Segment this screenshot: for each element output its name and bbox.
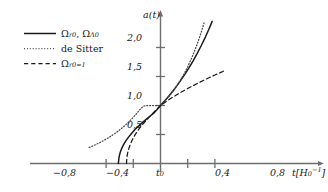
y-tick-label-1: 1,0 xyxy=(127,91,142,101)
y-tick-label-1_5: 1,5 xyxy=(127,62,142,72)
curve-omega-r0-eq-1 xyxy=(127,71,226,164)
y-axis-title: a(t) xyxy=(143,10,160,20)
x-tick-label-0_4: 0,4 xyxy=(215,168,230,178)
axis-layer xyxy=(30,16,318,172)
x-tick-label-t0: t0 xyxy=(156,168,164,178)
x-axis-title: t[H0−1] xyxy=(292,167,325,178)
legend-layer xyxy=(24,34,56,64)
y-tick-label-2: 2,0 xyxy=(127,33,142,43)
figure-scale-factor-plot xyxy=(0,0,328,192)
legend-label-de-sitter: de Sitter xyxy=(61,44,103,54)
x-tick-label-neg0_4: −0,4 xyxy=(106,168,129,178)
x-tick-label-0_8: 0,8 xyxy=(270,168,285,178)
legend-label-omega-r0-lambda0: Ωr0, ΩΛ0 xyxy=(61,29,99,39)
x-tick-label-neg0_8: −0,8 xyxy=(53,168,76,178)
curve-layer xyxy=(0,0,328,164)
y-tick-label-0_5: 0,5 xyxy=(127,120,142,130)
legend-label-omega-r0-eq-1: Ωr0=1 xyxy=(61,59,86,69)
curve-de-sitter xyxy=(89,23,204,148)
